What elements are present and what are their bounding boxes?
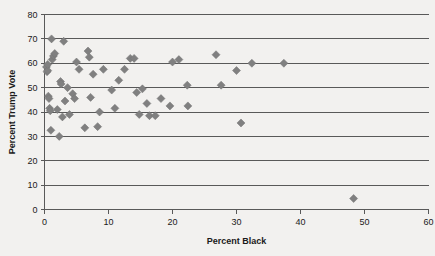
- x-tick-label-50: 50: [359, 217, 369, 227]
- x-tick-label-60: 60: [423, 217, 433, 227]
- x-axis-title: Percent Black: [207, 236, 268, 246]
- x-tick-label-30: 30: [231, 217, 241, 227]
- scatter-chart: 01020304050607080 0102030405060 Percent …: [0, 0, 435, 256]
- x-tick-label-10: 10: [103, 217, 113, 227]
- y-tick-label-70: 70: [27, 34, 37, 44]
- y-tick-label-80: 80: [27, 10, 37, 20]
- y-tick-label-20: 20: [27, 156, 37, 166]
- x-tick-label-20: 20: [167, 217, 177, 227]
- y-tick-label-10: 10: [27, 180, 37, 190]
- x-tick-label-0: 0: [42, 217, 47, 227]
- y-tick-label-50: 50: [27, 83, 37, 93]
- y-axis-title: Percent Trump Vote: [7, 70, 17, 154]
- chart-canvas: 01020304050607080 0102030405060 Percent …: [0, 0, 435, 256]
- y-tick-label-60: 60: [27, 58, 37, 68]
- x-tick-label-40: 40: [295, 217, 305, 227]
- y-tick-label-30: 30: [27, 132, 37, 142]
- y-tick-label-40: 40: [27, 107, 37, 117]
- y-tick-label-0: 0: [32, 205, 37, 215]
